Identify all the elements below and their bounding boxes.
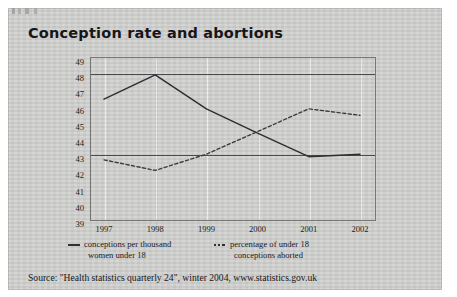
series-line-abortions bbox=[104, 109, 360, 171]
x-tick-label: 2002 bbox=[352, 224, 369, 234]
figure-panel: Conception rate and abortions 3940414243… bbox=[8, 8, 442, 290]
legend-label-line1: percentage of under 18 bbox=[230, 239, 309, 250]
data-lines bbox=[90, 57, 374, 219]
x-tick-label: 1998 bbox=[147, 224, 164, 234]
legend-label-line2: women under 18 bbox=[88, 250, 146, 261]
scan-artifact bbox=[12, 8, 46, 14]
legend-label-line1: conceptions per thousand bbox=[84, 239, 171, 250]
legend-label-line2: conceptions aborted bbox=[234, 250, 303, 261]
solid-line-marker-icon bbox=[68, 244, 80, 246]
x-tick-label: 2000 bbox=[249, 224, 266, 234]
x-tick-label: 2001 bbox=[300, 224, 317, 234]
plot-area: 3940414243444546474849 19971998199920002… bbox=[24, 48, 424, 248]
page-title: Conception rate and abortions bbox=[28, 25, 283, 41]
series-line-conceptions bbox=[104, 75, 360, 157]
x-tick-label: 1997 bbox=[96, 224, 113, 234]
x-tick-label: 1999 bbox=[198, 224, 215, 234]
x-axis-tick-labels: 199719981999200020012002 bbox=[90, 224, 374, 236]
y-axis-tick-labels: 3940414243444546474849 bbox=[62, 57, 84, 219]
source-caption: Source: "Health statistics quarterly 24"… bbox=[28, 272, 317, 283]
dashed-line-marker-icon bbox=[214, 244, 226, 246]
chart-legend: conceptions per thousand women under 18 … bbox=[24, 240, 424, 268]
